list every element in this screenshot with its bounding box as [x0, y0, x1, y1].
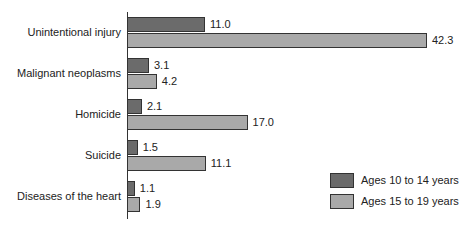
bar: [127, 181, 135, 196]
data-label: 11.0: [210, 18, 231, 30]
legend-label: Ages 15 to 19 years: [361, 195, 459, 207]
data-label: 4.2: [162, 75, 177, 87]
bar: [127, 33, 427, 48]
category-label: Suicide: [85, 149, 121, 161]
data-label: 17.0: [253, 116, 274, 128]
data-label: 3.1: [154, 59, 169, 71]
data-label: 2.1: [147, 100, 162, 112]
bar: [127, 58, 149, 73]
bar: [127, 115, 248, 130]
bar: [127, 197, 140, 212]
data-label: 42.3: [432, 34, 453, 46]
data-label: 11.1: [211, 157, 232, 169]
bar-chart: Ages 10 to 14 years Ages 15 to 19 years …: [0, 0, 475, 231]
legend-item: Ages 15 to 19 years: [330, 191, 459, 211]
legend-item: Ages 10 to 14 years: [330, 170, 459, 190]
legend-swatch-dark: [330, 173, 354, 188]
data-label: 1.9: [145, 198, 160, 210]
bar: [127, 17, 205, 32]
bar: [127, 74, 157, 89]
category-label: Diseases of the heart: [17, 190, 121, 202]
legend: Ages 10 to 14 years Ages 15 to 19 years: [330, 170, 459, 212]
bar: [127, 99, 142, 114]
legend-swatch-light: [330, 194, 354, 209]
data-label: 1.5: [143, 141, 158, 153]
category-label: Unintentional injury: [27, 26, 121, 38]
data-label: 1.1: [140, 182, 155, 194]
bar: [127, 140, 138, 155]
category-label: Homicide: [75, 108, 121, 120]
legend-label: Ages 10 to 14 years: [361, 174, 459, 186]
category-label: Malignant neoplasms: [17, 67, 121, 79]
bar: [127, 156, 206, 171]
